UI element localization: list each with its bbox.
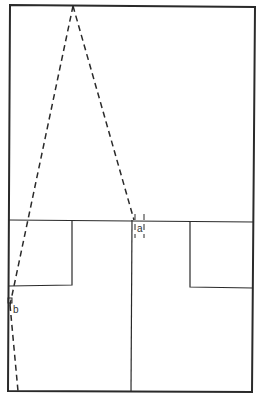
diagram-canvas: a b xyxy=(0,0,258,397)
right-inner-rectangle xyxy=(190,222,253,288)
dashed-line-right xyxy=(73,6,134,220)
center-vertical-line xyxy=(131,220,132,392)
dashed-line-left xyxy=(10,6,73,305)
label-a: a xyxy=(137,223,143,234)
left-inner-rectangle xyxy=(9,220,72,286)
dashed-line-lower xyxy=(10,305,18,391)
label-b: b xyxy=(13,304,19,315)
